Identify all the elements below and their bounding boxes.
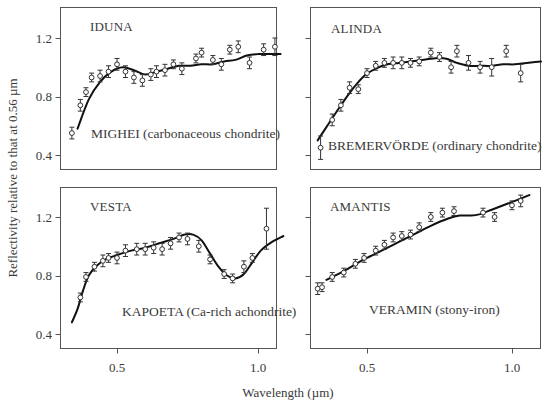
asteroid-data-point (356, 85, 361, 94)
asteroid-data-point (177, 233, 182, 242)
panel-title-iduna: IDUNA (90, 19, 133, 34)
asteroid-data-point (504, 45, 509, 57)
meteorite-label-kapoeta: KAPOETA (Ca-rich achondrite) (122, 304, 296, 319)
asteroid-data-point (199, 48, 204, 57)
panel-title-vesta: VESTA (90, 199, 132, 214)
panel-title-amantis: AMANTIS (330, 199, 391, 214)
ytick-label-0.8-top: 0.8 (36, 89, 52, 104)
asteroid-data-point (219, 58, 224, 70)
asteroid-data-point (140, 75, 145, 87)
asteroid-data-point (428, 213, 433, 222)
meteorite-label-mighei: MIGHEI (carbonaceous chondrite) (91, 126, 280, 141)
asteroid-data-point (247, 57, 252, 69)
panel-title-alinda: ALINDA (331, 21, 382, 36)
asteroid-data-point (100, 255, 105, 267)
asteroid-data-point (264, 208, 269, 249)
asteroid-data-point (452, 207, 457, 216)
asteroid-data-point (106, 254, 111, 263)
asteroid-data-point (518, 64, 523, 82)
ytick-label-0.4-top: 0.4 (36, 148, 53, 163)
asteroid-data-point (123, 245, 128, 257)
asteroid-data-point (230, 274, 235, 283)
asteroid-data-point (162, 64, 167, 76)
asteroid-data-point (315, 283, 320, 295)
x-axis-label: Wavelength (µm) (242, 385, 333, 400)
asteroid-data-point (391, 57, 396, 69)
ytick-label-1.2-bottom: 1.2 (36, 210, 52, 225)
asteroid-data-point (89, 73, 94, 82)
figure: Reflectivity relative to that at 0.56 µm… (0, 0, 549, 404)
asteroid-data-point (78, 99, 83, 111)
asteroid-data-point (437, 53, 442, 62)
xtick-label-0.5-right: 0.5 (359, 360, 375, 375)
asteroid-data-point (417, 57, 422, 66)
asteroid-data-point (179, 63, 184, 75)
asteroid-data-point (408, 58, 413, 67)
ytick-label-0.4-bottom: 0.4 (36, 327, 53, 342)
asteroid-data-point (481, 208, 486, 217)
asteroid-data-point (227, 45, 232, 54)
asteroid-data-point (196, 240, 201, 252)
asteroid-data-point (454, 45, 459, 57)
asteroid-data-point (134, 243, 139, 255)
asteroid-data-point (449, 61, 454, 73)
asteroid-data-point (440, 208, 445, 217)
xtick-label-1.0-right: 1.0 (504, 360, 520, 375)
asteroid-data-point (160, 243, 165, 255)
asteroid-data-point (154, 66, 159, 78)
panel-iduna-data (69, 38, 280, 139)
asteroid-data-point (148, 69, 153, 81)
xtick-label-0.5-left: 0.5 (109, 360, 125, 375)
asteroid-data-point (391, 233, 396, 242)
asteroid-data-point (320, 283, 325, 292)
asteroid-data-point (131, 72, 136, 84)
asteroid-data-point (330, 273, 335, 282)
ytick-label-0.8-bottom: 0.8 (36, 268, 52, 283)
asteroid-data-point (466, 56, 471, 71)
meteorite-label-veramin: VERAMIN (stony-iron) (369, 302, 500, 317)
asteroid-data-point (399, 57, 404, 69)
asteroid-data-point (143, 243, 148, 255)
y-axis-label: Reflectivity relative to that at 0.56 µm (5, 78, 20, 277)
meteorite-curve-alinda (318, 58, 541, 140)
xtick-label-1.0-left: 1.0 (250, 360, 266, 375)
asteroid-data-point (428, 48, 433, 57)
asteroid-data-point (489, 58, 494, 76)
ytick-label-1.2-top: 1.2 (36, 31, 52, 46)
asteroid-data-point (236, 41, 241, 53)
meteorite-label-bremervorde: BREMERVÖRDE (ordinary chondrite) (328, 138, 541, 153)
asteroid-data-point (193, 54, 198, 63)
asteroid-data-point (478, 61, 483, 73)
asteroid-data-point (69, 127, 74, 139)
asteroid-data-point (353, 259, 358, 268)
asteroid-data-point (492, 213, 497, 222)
asteroid-data-point (83, 88, 88, 97)
